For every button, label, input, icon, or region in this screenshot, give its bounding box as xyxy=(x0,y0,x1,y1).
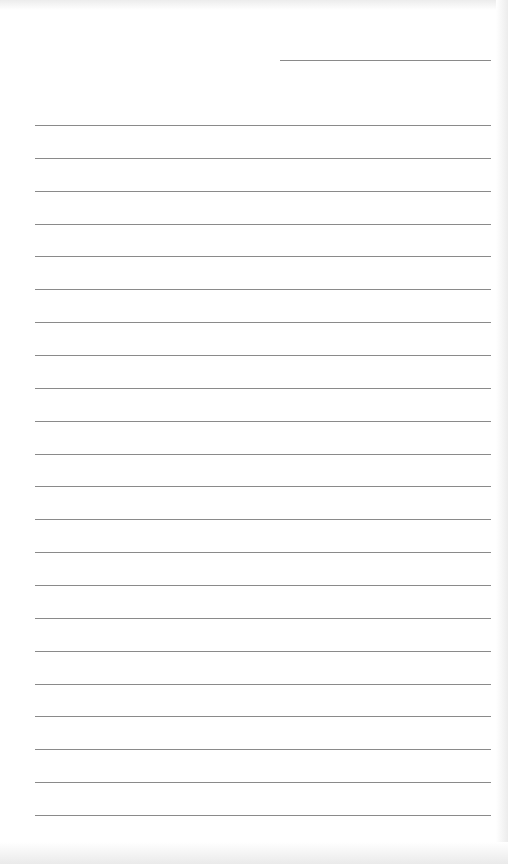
ruled-line xyxy=(35,289,491,290)
ruled-line xyxy=(35,224,491,225)
ruled-line xyxy=(35,552,491,553)
ruled-line xyxy=(35,388,491,389)
header-write-line xyxy=(280,60,491,61)
page-right-edge-shadow xyxy=(496,0,508,864)
lined-paper-page xyxy=(0,0,508,864)
ruled-line xyxy=(35,191,491,192)
page-top-edge-shadow xyxy=(0,0,508,10)
ruled-line xyxy=(35,125,491,126)
ruled-line xyxy=(35,684,491,685)
ruled-line xyxy=(35,421,491,422)
page-bottom-edge-shadow xyxy=(0,842,508,864)
ruled-line xyxy=(35,486,491,487)
ruled-line xyxy=(35,322,491,323)
ruled-line xyxy=(35,519,491,520)
ruled-line xyxy=(35,618,491,619)
ruled-line xyxy=(35,158,491,159)
ruled-line xyxy=(35,749,491,750)
ruled-line xyxy=(35,716,491,717)
ruled-line xyxy=(35,256,491,257)
ruled-line xyxy=(35,651,491,652)
ruled-line xyxy=(35,815,491,816)
ruled-line xyxy=(35,585,491,586)
ruled-line xyxy=(35,782,491,783)
ruled-line xyxy=(35,355,491,356)
ruled-line xyxy=(35,454,491,455)
